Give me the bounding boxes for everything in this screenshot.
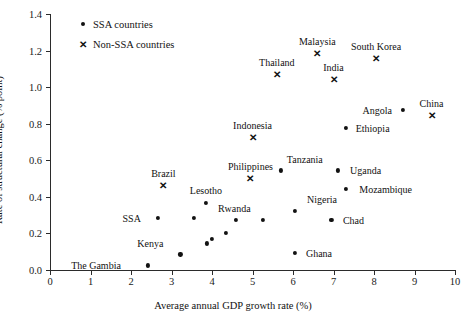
y-axis-title: Rate of structural change (% point) [0, 76, 4, 224]
dot-marker-icon [76, 22, 90, 26]
data-point-marker: ✕ [246, 174, 254, 184]
chart-legend: SSA countries✕Non-SSA countries [76, 16, 174, 56]
y-tick [46, 270, 50, 271]
data-point-label: Ghana [306, 247, 332, 258]
legend-label: SSA countries [93, 19, 153, 30]
data-point-label: Malaysia [299, 36, 336, 47]
data-point-label: SSA [123, 212, 141, 223]
x-tick-label: 7 [331, 276, 336, 287]
x-tick [91, 271, 92, 275]
x-tick-label: 4 [209, 276, 214, 287]
data-point-marker: ✕ [372, 54, 380, 64]
y-tick-label: 0.4 [14, 191, 42, 202]
x-tick-label: 10 [450, 276, 461, 287]
data-point-label: Chad [343, 214, 364, 225]
x-tick [212, 271, 213, 275]
x-axis-title: Average annual GDP growth rate (%) [0, 300, 466, 311]
x-tick [334, 271, 335, 275]
data-point-marker: ✕ [159, 181, 167, 191]
scatter-chart: 0123456789100.00.20.40.60.81.01.21.4 Ave… [0, 0, 466, 322]
cross-marker-icon: ✕ [76, 39, 90, 50]
x-tick [50, 271, 51, 275]
data-point-label: Brazil [151, 167, 175, 178]
data-point-label: Thailand [259, 57, 295, 68]
data-point-marker: ✕ [330, 75, 338, 85]
y-tick-label: 1.0 [14, 82, 42, 93]
data-point-marker: ✕ [428, 111, 436, 121]
data-point-label: Ethiopia [356, 123, 390, 134]
data-point-label: Uganda [350, 165, 381, 176]
legend-item: ✕Non-SSA countries [76, 36, 174, 52]
x-tick-label: 9 [412, 276, 417, 287]
x-tick [293, 271, 294, 275]
data-point-marker: ✕ [273, 70, 281, 80]
y-tick-label: 0.2 [14, 228, 42, 239]
x-tick [374, 271, 375, 275]
x-tick-label: 1 [88, 276, 93, 287]
y-tick-label: 0.6 [14, 155, 42, 166]
data-point-label: Tanzania [287, 154, 323, 165]
x-tick-label: 5 [250, 276, 255, 287]
x-tick [131, 271, 132, 275]
x-tick-label: 2 [128, 276, 133, 287]
data-point-label: India [323, 61, 344, 72]
data-point-label: Lesotho [190, 185, 222, 196]
data-point-label: China [420, 98, 444, 109]
data-point-label: Angola [362, 105, 391, 116]
data-point-label: Nigeria [307, 193, 337, 204]
data-point-label: Indonesia [233, 120, 272, 131]
dot-shape [81, 22, 85, 26]
data-point-label: South Korea [351, 40, 401, 51]
y-tick-label: 1.4 [14, 9, 42, 20]
x-tick [253, 271, 254, 275]
x-tick-label: 8 [371, 276, 376, 287]
data-point-label: Mozambique [359, 183, 412, 194]
data-point-marker: ✕ [249, 133, 257, 143]
legend-label: Non-SSA countries [93, 39, 174, 50]
x-tick [172, 271, 173, 275]
x-tick [455, 271, 456, 275]
x-tick [415, 271, 416, 275]
data-point-label: Philippines [228, 160, 273, 171]
data-point-label: The Gambia [71, 260, 121, 271]
data-point-label: Kenya [137, 238, 163, 249]
legend-item: SSA countries [76, 16, 174, 32]
x-tick-label: 6 [290, 276, 295, 287]
x-tick-label: 0 [47, 276, 52, 287]
data-point-marker: ✕ [313, 49, 321, 59]
data-point-label: Rwanda [218, 202, 251, 213]
y-tick-label: 1.2 [14, 45, 42, 56]
y-tick-label: 0.0 [14, 265, 42, 276]
y-tick-label: 0.8 [14, 118, 42, 129]
x-tick-label: 3 [169, 276, 174, 287]
